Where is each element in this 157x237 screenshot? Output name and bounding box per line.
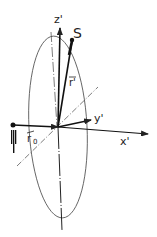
r-prime-label: r' — [69, 77, 76, 88]
observer-icon — [11, 123, 17, 154]
y-axis-arrow — [58, 120, 91, 127]
y-axis-label: y' — [94, 112, 104, 125]
z-axis-label: z' — [54, 13, 63, 26]
lower-axis-line — [58, 127, 62, 230]
coordinate-diagram: z' S r' y' x' r 0 — [0, 0, 157, 237]
svg-text:0: 0 — [33, 138, 37, 146]
vertical-dash-line — [51, 32, 57, 127]
r0-label: r 0 — [27, 131, 37, 146]
x-axis-label: x' — [120, 135, 130, 148]
x-axis-arrow — [58, 127, 148, 134]
svg-text:r': r' — [69, 77, 76, 88]
r0-vector — [13, 125, 58, 127]
source-label: S — [73, 25, 82, 41]
svg-text:r: r — [27, 133, 32, 144]
